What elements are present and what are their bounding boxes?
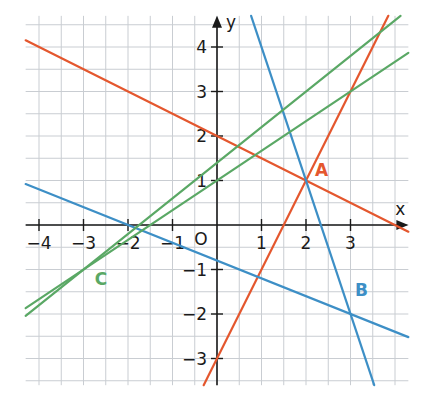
red-line-2 — [204, 16, 389, 385]
coordinate-plane-chart: −4−3−2−1123−3−2−11234Oxy ABC — [0, 0, 433, 409]
x-tick-label: 1 — [256, 233, 267, 253]
x-tick-label: 3 — [345, 233, 356, 253]
y-tick-label: −2 — [182, 304, 207, 324]
y-tick-label: −1 — [182, 260, 207, 280]
y-tick-label: 4 — [196, 37, 207, 57]
point-label-b: B — [355, 280, 368, 300]
y-tick-label: 3 — [196, 82, 207, 102]
x-axis-label: x — [395, 199, 405, 219]
point-label-c: C — [95, 269, 107, 289]
point-label-a: A — [315, 160, 329, 180]
origin-label: O — [194, 229, 207, 249]
labels: ABC — [95, 160, 368, 300]
x-tick-label: −2 — [115, 233, 140, 253]
green-line-2 — [26, 16, 401, 316]
y-tick-label: −3 — [182, 349, 207, 369]
x-tick-label: −4 — [26, 233, 51, 253]
y-axis-arrow-icon — [212, 16, 222, 28]
x-tick-label: 2 — [301, 233, 312, 253]
y-axis-label: y — [226, 12, 236, 32]
blue-line-2 — [251, 16, 374, 385]
x-tick-label: −3 — [71, 233, 96, 253]
